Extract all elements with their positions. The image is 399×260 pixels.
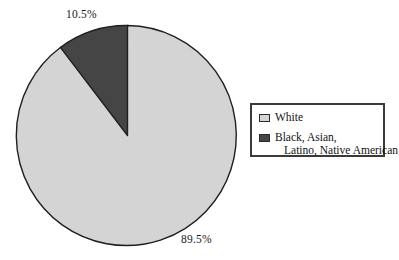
slice-label-minority: 10.5% (66, 9, 97, 21)
slice-label-white: 89.5% (181, 234, 212, 246)
chart-legend: White Black, Asian,Latino, Native Americ… (250, 103, 385, 157)
legend-item-white: White (259, 111, 383, 124)
legend-label-minority-line1: Black, Asian, (275, 131, 337, 143)
legend-item-minority: Black, Asian,Latino, Native American (259, 131, 383, 157)
legend-swatch-minority-icon (259, 134, 270, 142)
pie-chart-figure: 10.5% 89.5% White Black, Asian,Latino, N… (0, 0, 399, 260)
legend-label-minority-line2: Latino, Native American (275, 144, 398, 157)
legend-swatch-white-icon (259, 114, 270, 122)
legend-label-minority: Black, Asian,Latino, Native American (275, 131, 398, 157)
legend-label-white: White (275, 111, 303, 124)
